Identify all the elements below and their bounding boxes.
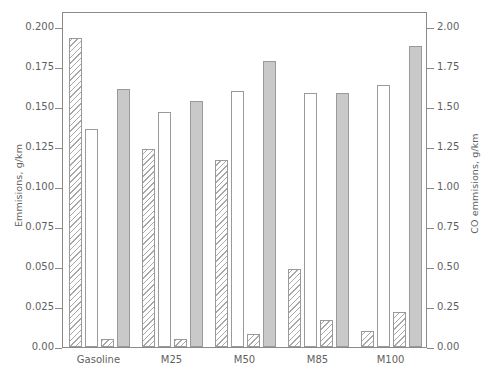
right-tick-label: 1.50: [437, 102, 459, 112]
bars-layer: [63, 13, 426, 347]
left-tick-mark: [55, 188, 62, 189]
bar-m100-open-series: [377, 85, 390, 347]
left-tick-label: 0.050: [0, 262, 54, 272]
right-tick-label: 1.75: [437, 62, 459, 72]
bar-m25-hatched-series-1: [142, 149, 155, 347]
right-tick-mark: [427, 268, 434, 269]
left-tick-mark: [55, 228, 62, 229]
left-tick-label: 0.075: [0, 222, 54, 232]
bar-m50-hatched-series-1: [215, 160, 228, 347]
x-axis-label-m50: M50: [208, 354, 281, 365]
bar-m50-co-series: [263, 61, 276, 347]
right-tick-mark: [427, 68, 434, 69]
bar-gasoline-co-series: [117, 89, 130, 347]
bar-m85-hatched-series-1: [288, 269, 301, 347]
right-tick-label: 0.50: [437, 262, 459, 272]
left-tick-label: 0.150: [0, 102, 54, 112]
x-axis-label-m85: M85: [281, 354, 354, 365]
right-tick-mark: [427, 308, 434, 309]
right-tick-label: 0.25: [437, 302, 459, 312]
left-tick-mark: [55, 68, 62, 69]
left-tick-mark: [55, 308, 62, 309]
bar-m85-co-series: [336, 93, 349, 347]
bar-gasoline-open-series: [85, 129, 98, 347]
right-tick-label: 0.00: [437, 342, 459, 352]
left-tick-label: 0.125: [0, 142, 54, 152]
left-tick-label: 0.100: [0, 182, 54, 192]
bar-m100-hatched-series-1: [361, 331, 374, 347]
left-tick-label: 0.00: [0, 342, 54, 352]
x-axis-label-m100: M100: [354, 354, 427, 365]
left-tick-mark: [55, 348, 62, 349]
bar-m85-hatched-series-2: [320, 320, 333, 347]
bar-m100-co-series: [409, 46, 422, 347]
right-tick-mark: [427, 108, 434, 109]
bar-m50-hatched-series-2: [247, 334, 260, 347]
bar-m25-open-series: [158, 112, 171, 347]
x-axis-label-m25: M25: [135, 354, 208, 365]
emissions-bar-chart-figure: Emmisions, g/km CO emmisions, g/km 0.000…: [0, 0, 490, 387]
right-tick-label: 0.75: [437, 222, 459, 232]
x-axis-label-gasoline: Gasoline: [62, 354, 135, 365]
plot-area: [62, 12, 427, 348]
bar-m25-co-series: [190, 101, 203, 347]
right-tick-mark: [427, 348, 434, 349]
left-tick-mark: [55, 148, 62, 149]
bar-m100-hatched-series-2: [393, 312, 406, 347]
right-tick-label: 1.00: [437, 182, 459, 192]
right-tick-label: 2.00: [437, 22, 459, 32]
bar-m25-hatched-series-2: [174, 339, 187, 347]
bar-gasoline-hatched-series-1: [69, 38, 82, 347]
left-tick-label: 0.175: [0, 62, 54, 72]
right-tick-mark: [427, 148, 434, 149]
right-axis-title: CO emmisions, g/km: [469, 114, 480, 254]
bar-m85-open-series: [304, 93, 317, 347]
left-tick-mark: [55, 28, 62, 29]
bar-m50-open-series: [231, 91, 244, 347]
left-tick-label: 0.200: [0, 22, 54, 32]
left-tick-mark: [55, 108, 62, 109]
right-tick-mark: [427, 188, 434, 189]
bar-gasoline-hatched-series-2: [101, 339, 114, 347]
right-tick-label: 1.25: [437, 142, 459, 152]
right-tick-mark: [427, 28, 434, 29]
left-tick-mark: [55, 268, 62, 269]
left-tick-label: 0.025: [0, 302, 54, 312]
right-tick-mark: [427, 228, 434, 229]
